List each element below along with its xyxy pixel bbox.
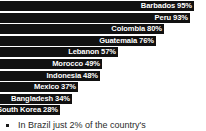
bar-south-korea: South Korea 28%: [0, 105, 60, 115]
bar-label: Guatemala 76%: [99, 36, 156, 46]
bar-guatemala: Guatemala 76%: [0, 36, 156, 46]
bar-label: Bangladesh 34%: [11, 94, 72, 104]
bar-row: Barbados 95%: [0, 1, 206, 11]
bar-bangladesh: Bangladesh 34%: [0, 94, 72, 104]
bar-row: Guatemala 76%: [0, 36, 206, 46]
bar-lebanon: Lebanon 57%: [0, 47, 118, 57]
bar-mexico: Mexico 37%: [0, 82, 78, 92]
bar-row: Peru 93%: [0, 13, 206, 23]
bar-label: Peru 93%: [155, 13, 190, 23]
square-bullet-icon: [6, 124, 9, 127]
bar-label: Lebanon 57%: [68, 47, 118, 57]
footnote-line: In Brazil just 2% of the country's: [0, 120, 206, 131]
bar-indonesia: Indonesia 48%: [0, 71, 100, 81]
footnote-text: In Brazil just 2% of the country's: [18, 120, 146, 131]
horizontal-bar-chart-figure: Barbados 95% Peru 93% Colombia 80% Guate…: [0, 0, 206, 131]
bar-morocco: Morocco 49%: [0, 59, 102, 69]
bar-barbados: Barbados 95%: [0, 1, 194, 11]
bar-row: South Korea 28%: [0, 105, 206, 115]
bar-colombia: Colombia 80%: [0, 24, 164, 34]
bar-row: Morocco 49%: [0, 59, 206, 69]
bar-row: Indonesia 48%: [0, 71, 206, 81]
bar-label: Indonesia 48%: [47, 71, 100, 81]
bar-label: Barbados 95%: [141, 1, 194, 11]
bar-row: Bangladesh 34%: [0, 94, 206, 104]
bar-row: Lebanon 57%: [0, 47, 206, 57]
bar-label: Mexico 37%: [34, 82, 78, 92]
bar-chart-plot-area: Barbados 95% Peru 93% Colombia 80% Guate…: [0, 1, 206, 117]
bar-peru: Peru 93%: [0, 13, 190, 23]
bar-label: South Korea 28%: [0, 105, 60, 115]
bar-label: Morocco 49%: [52, 59, 102, 69]
bar-row: Mexico 37%: [0, 82, 206, 92]
bar-row: Colombia 80%: [0, 24, 206, 34]
bar-label: Colombia 80%: [111, 24, 164, 34]
